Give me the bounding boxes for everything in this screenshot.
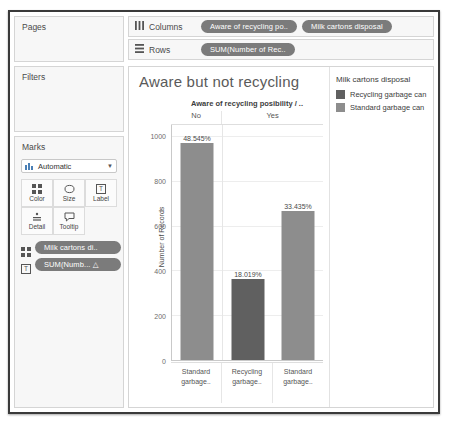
bar-label-3: 33.435%	[284, 203, 312, 210]
rows-shelf-pills: SUM(Number of Rec..	[201, 43, 295, 56]
label-text-icon: T	[21, 260, 31, 270]
chart-title: Aware but not recycling	[139, 73, 299, 90]
marks-pill-color-row: Milk cartons di..	[21, 241, 121, 254]
bar-1[interactable]	[181, 143, 214, 360]
filters-shelf-title: Filters	[15, 67, 123, 87]
rows-pill-1[interactable]: SUM(Number of Rec..	[201, 43, 295, 56]
marks-pill-label-row: T SUM(Numb... △	[21, 258, 121, 271]
chart-canvas: Aware but not recycling Aware of recycli…	[129, 67, 329, 407]
x-label-2: Recycling garbage..	[221, 363, 272, 403]
size-icon	[64, 183, 75, 194]
filters-shelf[interactable]: Filters	[14, 66, 124, 132]
columns-shelf-label-group: Columns	[129, 21, 201, 32]
pane-yes: 18.019% 33.435%	[222, 125, 323, 360]
pages-shelf-title: Pages	[15, 17, 123, 37]
x-axis-labels: Standard garbage.. Recycling garbage.. S…	[171, 362, 323, 403]
rows-icon	[135, 44, 144, 55]
marks-color-button[interactable]: Color	[21, 179, 53, 207]
color-legend: Milk cartons disposal Recycling garbage …	[329, 67, 433, 407]
bar-2[interactable]	[232, 279, 265, 360]
detail-icon	[32, 211, 42, 222]
marks-pill-color[interactable]: Milk cartons di..	[35, 241, 121, 254]
legend-swatch-recycling	[336, 90, 345, 99]
column-header-title: Aware of recycling posibility / ..	[169, 99, 325, 108]
legend-title: Milk cartons disposal	[336, 75, 427, 84]
legend-item-recycling[interactable]: Recycling garbage can	[336, 90, 427, 99]
mark-type-label: Automatic	[38, 162, 71, 171]
shelves-area: Columns Aware of recycling po.. Milk car…	[128, 16, 434, 62]
tableau-worksheet-window: Pages Filters Marks Automatic ▼	[8, 10, 440, 414]
columns-icon	[135, 21, 144, 32]
column-group-headers: No Yes	[171, 111, 323, 125]
rows-shelf-label-group: Rows	[129, 44, 201, 55]
bar-slot-3: 33.435%	[273, 125, 323, 360]
y-tick-label: 0	[162, 358, 166, 365]
marks-tooltip-button[interactable]: Tooltip	[53, 207, 85, 235]
y-tick-label: 800	[154, 178, 166, 185]
columns-pill-2[interactable]: Milk cartons disposal	[302, 20, 392, 33]
marks-detail-button[interactable]: Detail	[21, 207, 53, 235]
bars-group-yes: 18.019% 33.435%	[223, 125, 323, 360]
bar-chart-icon	[25, 161, 34, 172]
marks-pill-label[interactable]: SUM(Numb... △	[35, 258, 121, 271]
bar-slot-2: 18.019%	[223, 125, 273, 360]
legend-item-standard[interactable]: Standard garbage can	[336, 103, 427, 112]
plot-area: 48.545% 18.019% 33.435%	[171, 125, 323, 361]
marks-pills-list: Milk cartons di.. T SUM(Numb... △	[21, 241, 121, 275]
marks-color-label: Color	[29, 196, 45, 203]
marks-buttons-grid: Color Size T Label	[21, 179, 117, 235]
column-group-header-yes: Yes	[221, 111, 323, 124]
visualization-area: Aware but not recycling Aware of recycli…	[128, 66, 434, 408]
rows-shelf-label: Rows	[149, 45, 170, 55]
svg-text:T: T	[24, 265, 28, 272]
bar-label-2: 18.019%	[234, 271, 262, 278]
rows-shelf[interactable]: Rows SUM(Number of Rec..	[128, 39, 434, 60]
bar-3[interactable]	[282, 211, 315, 361]
legend-label-standard: Standard garbage can	[350, 103, 424, 112]
marks-label-button[interactable]: T Label	[85, 179, 117, 207]
marks-size-button[interactable]: Size	[53, 179, 85, 207]
y-tick-label: 1000	[150, 133, 166, 140]
bar-label-1: 48.545%	[183, 135, 211, 142]
label-text-icon: T	[96, 183, 106, 194]
columns-shelf-label: Columns	[149, 22, 183, 32]
bar-slot-1: 48.545%	[172, 125, 222, 360]
color-squares-icon	[21, 243, 31, 253]
marks-card-title: Marks	[15, 137, 123, 157]
columns-shelf-pills: Aware of recycling po.. Milk cartons dis…	[201, 20, 392, 33]
panes: 48.545% 18.019% 33.435%	[172, 125, 323, 360]
pane-no: 48.545%	[172, 125, 222, 360]
color-squares-icon	[32, 183, 42, 194]
x-label-3: Standard garbage..	[272, 363, 323, 403]
chevron-down-icon[interactable]: ▼	[107, 163, 113, 169]
marks-size-label: Size	[63, 196, 76, 203]
legend-label-recycling: Recycling garbage can	[350, 90, 426, 99]
marks-buttons-row-2: Detail Tooltip	[21, 207, 117, 235]
pages-shelf[interactable]: Pages	[14, 16, 124, 62]
y-tick-label: 200	[154, 313, 166, 320]
marks-buttons-row-1: Color Size T Label	[21, 179, 117, 207]
bars-group-no: 48.545%	[172, 125, 222, 360]
left-sidebar: Pages Filters Marks Automatic ▼	[10, 12, 128, 412]
y-axis-ticks: 02004006008001000	[139, 125, 169, 361]
mark-type-select[interactable]: Automatic ▼	[21, 159, 117, 173]
y-tick-label: 400	[154, 268, 166, 275]
marks-tooltip-label: Tooltip	[60, 224, 79, 231]
marks-card: Marks Automatic ▼ Color	[14, 136, 124, 408]
marks-label-label: Label	[93, 196, 109, 203]
tooltip-icon	[64, 211, 75, 222]
marks-detail-label: Detail	[29, 224, 46, 231]
svg-text:T: T	[99, 185, 103, 192]
legend-swatch-standard	[336, 103, 345, 112]
x-label-1: Standard garbage..	[171, 363, 221, 403]
y-tick-label: 600	[154, 223, 166, 230]
columns-pill-1[interactable]: Aware of recycling po..	[201, 20, 297, 33]
column-group-header-no: No	[171, 111, 221, 124]
columns-shelf[interactable]: Columns Aware of recycling po.. Milk car…	[128, 16, 434, 37]
